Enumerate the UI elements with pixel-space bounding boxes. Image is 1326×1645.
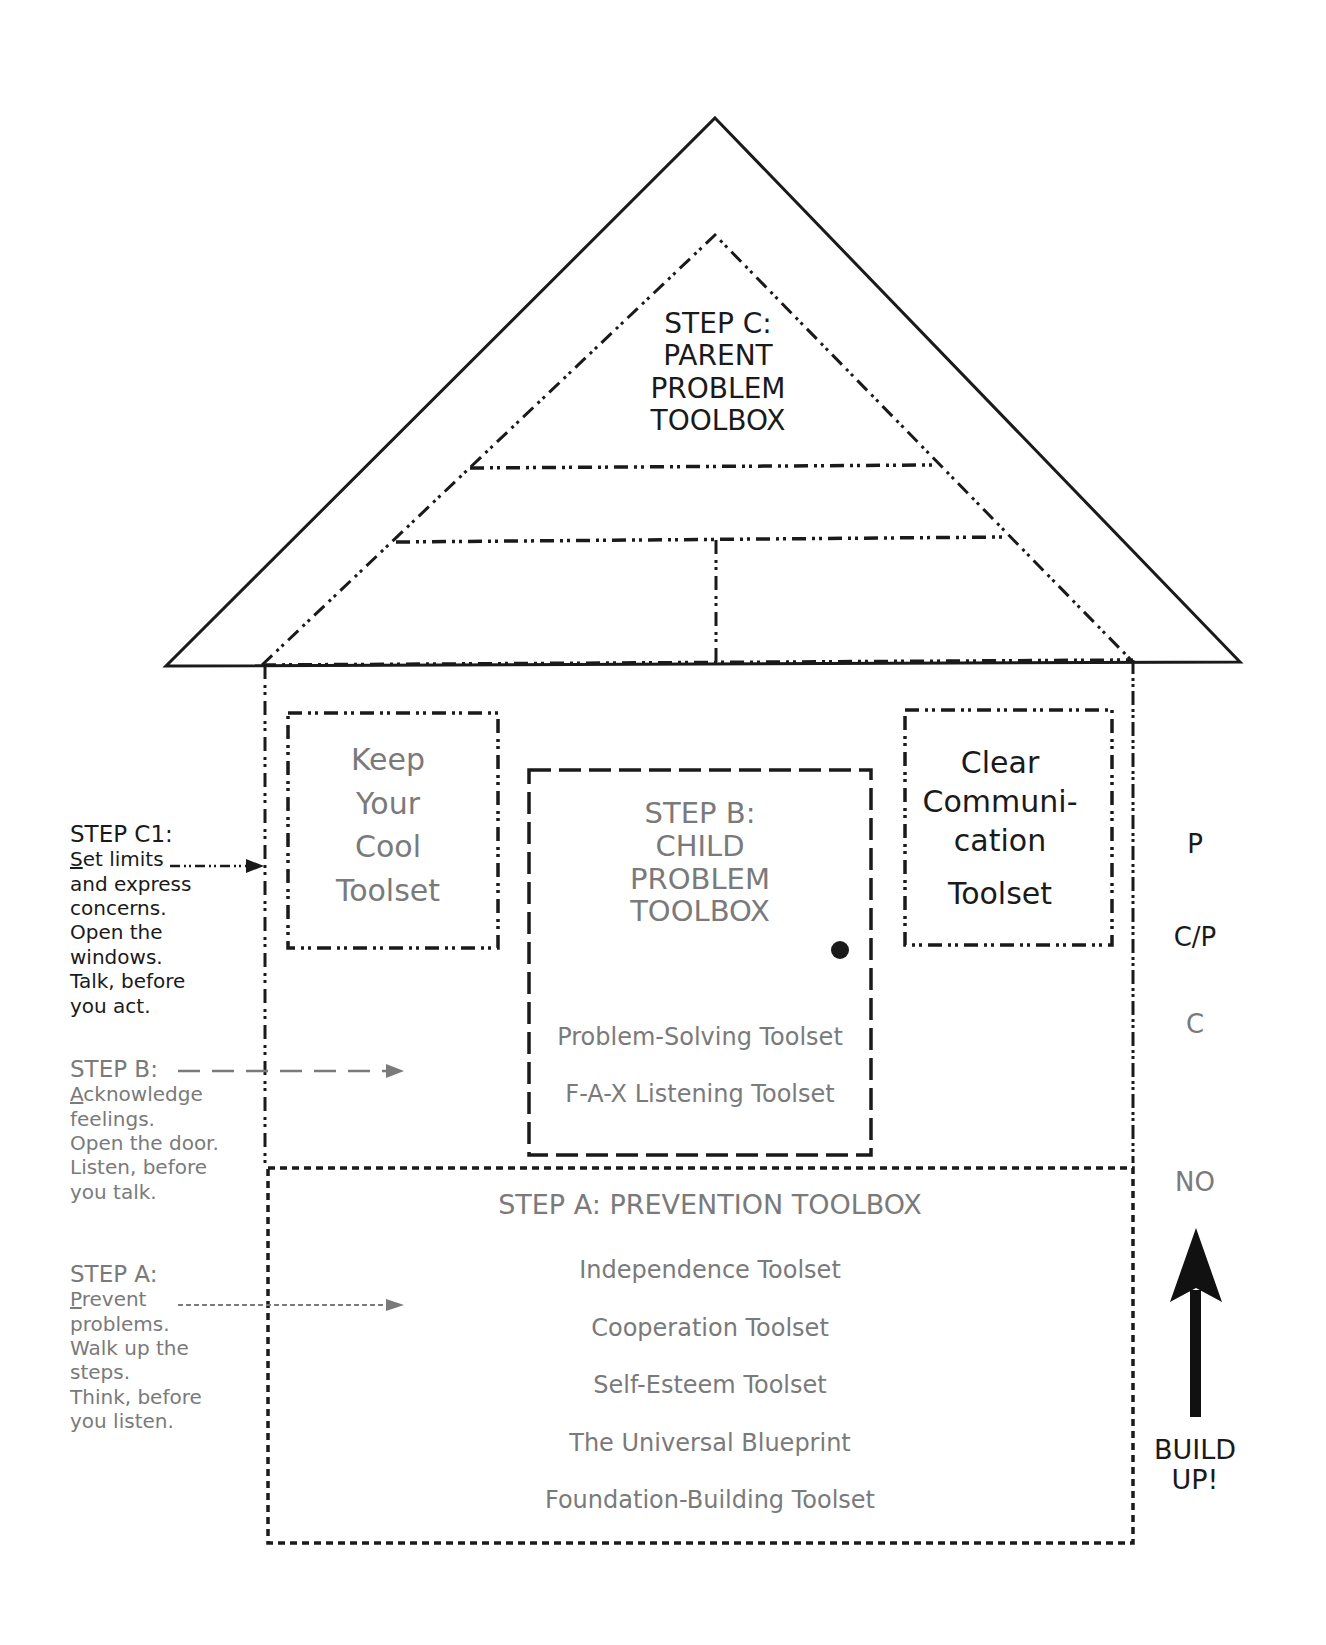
- side-note-line: Talk, before: [70, 969, 191, 993]
- side-note-line: you listen.: [70, 1409, 202, 1433]
- cooperation-toolset-label: Cooperation Toolset: [480, 1315, 940, 1341]
- attic-floor-lower: [396, 537, 1005, 542]
- side-note-heading: STEP C1:: [70, 822, 191, 847]
- attic-floor-upper: [470, 465, 935, 468]
- scale-label-child: C: [1150, 1010, 1240, 1039]
- window-left-line: Toolset: [288, 869, 488, 913]
- roof-title-line: TOOLBOX: [588, 405, 848, 437]
- side-note-step-b: STEP B: Acknowledge feelings. Open the d…: [70, 1057, 219, 1204]
- side-note-line: concerns.: [70, 896, 191, 920]
- independence-toolset-label: Independence Toolset: [480, 1257, 940, 1283]
- arrow-step-a-head-icon: [386, 1299, 404, 1311]
- side-note-text: et limits: [83, 847, 164, 871]
- scale-label-parent: P: [1150, 830, 1240, 859]
- side-note-line: windows.: [70, 945, 191, 969]
- door-title-line: TOOLBOX: [530, 895, 870, 928]
- door-knob-icon: [831, 941, 849, 959]
- window-right-line: Communi-: [895, 782, 1105, 821]
- side-note-line: Open the door.: [70, 1131, 219, 1155]
- side-note-initial: S: [70, 847, 83, 871]
- door-title-line: PROBLEM: [530, 863, 870, 896]
- scale-label-child-parent: C/P: [1150, 923, 1240, 952]
- side-note-line: Think, before: [70, 1385, 202, 1409]
- arrow-step-b-head-icon: [386, 1064, 404, 1078]
- build-up-line: BUILD: [1140, 1435, 1250, 1465]
- step-b-child-problem-toolbox-label: STEP B: CHILD PROBLEM TOOLBOX: [530, 797, 870, 928]
- window-left-line: Keep: [288, 738, 488, 782]
- roof-inner-outline: [262, 235, 1133, 665]
- universal-blueprint-label: The Universal Blueprint: [480, 1430, 940, 1456]
- door-title-line: CHILD: [530, 830, 870, 863]
- step-a-prevention-toolbox-label: STEP A: PREVENTION TOOLBOX: [430, 1190, 990, 1220]
- side-note-line: problems.: [70, 1312, 202, 1336]
- keep-your-cool-toolset-label: Keep Your Cool Toolset: [288, 738, 488, 912]
- side-note-heading: STEP B:: [70, 1057, 219, 1082]
- door-title-line: STEP B:: [530, 797, 870, 830]
- fax-listening-toolset-label: F-A-X Listening Toolset: [530, 1081, 870, 1107]
- build-up-line: UP!: [1140, 1465, 1250, 1495]
- side-note-step-a: STEP A: Prevent problems. Walk up the st…: [70, 1262, 202, 1434]
- side-note-line: you act.: [70, 994, 191, 1018]
- roof-title-line: PARENT: [588, 340, 848, 372]
- window-right-line: Toolset: [895, 874, 1105, 913]
- side-note-text: revent: [82, 1287, 147, 1311]
- side-note-text: cknowledge: [83, 1082, 202, 1106]
- scale-label-no: NO: [1150, 1168, 1240, 1197]
- step-c-parent-problem-toolbox-label: STEP C: PARENT PROBLEM TOOLBOX: [588, 308, 848, 438]
- window-left-line: Your: [288, 782, 488, 826]
- side-note-line: steps.: [70, 1360, 202, 1384]
- clear-communication-toolset-label: Clear Communi- cation Toolset: [895, 743, 1105, 913]
- side-note-line: and express: [70, 872, 191, 896]
- foundation-building-toolset-label: Foundation-Building Toolset: [480, 1487, 940, 1513]
- window-right-line: cation: [895, 821, 1105, 860]
- arrow-step-c1-head-icon: [246, 859, 264, 873]
- side-note-initial: A: [70, 1082, 83, 1106]
- build-up-arrow-shaft: [1190, 1290, 1201, 1417]
- side-note-line: feelings.: [70, 1107, 219, 1131]
- side-note-line: Listen, before: [70, 1155, 219, 1179]
- side-note-line: you talk.: [70, 1180, 219, 1204]
- build-up-label: BUILD UP!: [1140, 1435, 1250, 1494]
- side-note-heading: STEP A:: [70, 1262, 202, 1287]
- roof-title-line: STEP C:: [588, 308, 848, 340]
- self-esteem-toolset-label: Self-Esteem Toolset: [480, 1372, 940, 1398]
- side-note-line: Walk up the: [70, 1336, 202, 1360]
- side-note-initial: P: [70, 1287, 82, 1311]
- side-note-step-c1: STEP C1: Set limits and express concerns…: [70, 822, 191, 1018]
- window-left-line: Cool: [288, 825, 488, 869]
- roof-title-line: PROBLEM: [588, 373, 848, 405]
- window-right-line: Clear: [895, 743, 1105, 782]
- problem-solving-toolset-label: Problem-Solving Toolset: [530, 1024, 870, 1050]
- side-note-line: Open the: [70, 920, 191, 944]
